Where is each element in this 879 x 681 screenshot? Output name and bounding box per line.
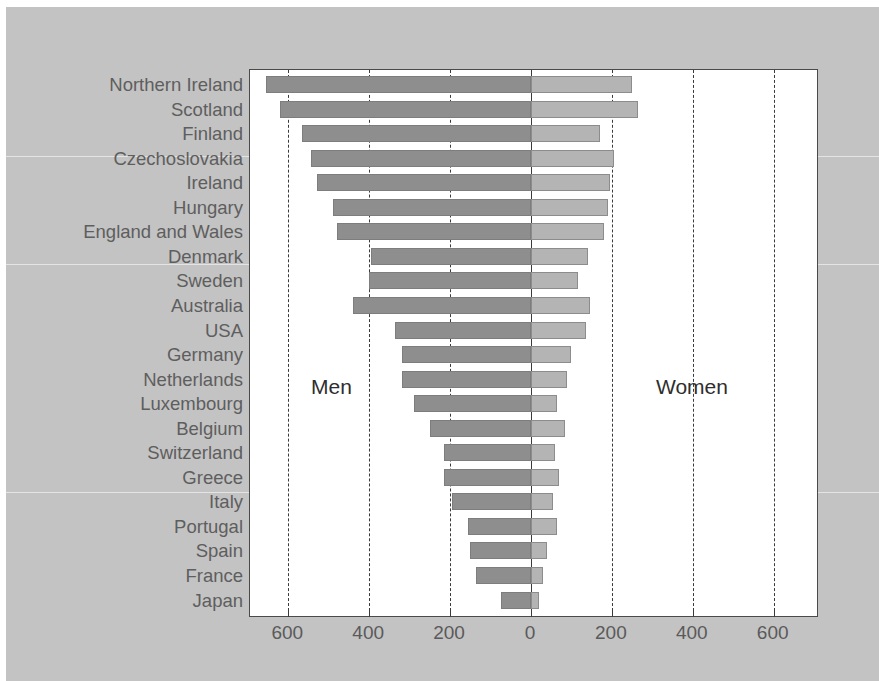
category-label: Portugal bbox=[174, 518, 243, 537]
gridline bbox=[693, 70, 694, 616]
bar-men bbox=[476, 567, 531, 584]
bar-men bbox=[302, 125, 531, 142]
gridline bbox=[288, 70, 289, 616]
bar-men bbox=[470, 542, 531, 559]
bar-men bbox=[353, 297, 531, 314]
category-label: Finland bbox=[182, 125, 243, 144]
bar-women bbox=[531, 518, 557, 535]
category-label: Germany bbox=[167, 346, 243, 365]
bar-men bbox=[430, 420, 531, 437]
axis-tick bbox=[693, 608, 694, 617]
bar-women bbox=[531, 150, 614, 167]
bar-men bbox=[501, 592, 531, 609]
bar-women bbox=[531, 101, 638, 118]
axis-tick-label: 200 bbox=[419, 622, 479, 644]
axis-tick-label: 200 bbox=[581, 622, 641, 644]
category-label: France bbox=[185, 567, 243, 586]
category-label: Belgium bbox=[176, 420, 243, 439]
bar-men bbox=[444, 469, 531, 486]
category-label: USA bbox=[205, 322, 243, 341]
bar-women bbox=[531, 469, 559, 486]
bar-men bbox=[266, 76, 531, 93]
bar-men bbox=[333, 199, 531, 216]
bar-women bbox=[531, 395, 557, 412]
figure-root: Northern IrelandScotlandFinlandCzechoslo… bbox=[0, 0, 879, 681]
category-label: Scotland bbox=[171, 101, 243, 120]
bar-women bbox=[531, 493, 553, 510]
category-label: Japan bbox=[193, 592, 243, 611]
category-label: Sweden bbox=[176, 272, 243, 291]
bar-women bbox=[531, 420, 565, 437]
bar-men bbox=[371, 248, 531, 265]
bar-men bbox=[414, 395, 531, 412]
category-label: Netherlands bbox=[143, 371, 243, 390]
bar-women bbox=[531, 592, 539, 609]
bar-men bbox=[452, 493, 531, 510]
plot-area: Men Women bbox=[249, 69, 818, 617]
gridline bbox=[774, 70, 775, 616]
axis-tick bbox=[612, 608, 613, 617]
category-label: Ireland bbox=[186, 174, 243, 193]
bar-men bbox=[402, 371, 531, 388]
axis-tick bbox=[450, 608, 451, 617]
bar-men bbox=[311, 150, 531, 167]
category-label: Luxembourg bbox=[140, 395, 243, 414]
category-label: Greece bbox=[182, 469, 243, 488]
bar-men bbox=[468, 518, 531, 535]
bar-women bbox=[531, 542, 547, 559]
category-label: Switzerland bbox=[147, 444, 243, 463]
bar-women bbox=[531, 272, 578, 289]
category-label: Czechoslovakia bbox=[113, 150, 243, 169]
axis-tick bbox=[369, 608, 370, 617]
category-label: Australia bbox=[171, 297, 243, 316]
category-label: Denmark bbox=[168, 248, 243, 267]
bar-women bbox=[531, 199, 608, 216]
bar-men bbox=[369, 272, 531, 289]
bar-men bbox=[395, 322, 531, 339]
bar-men bbox=[280, 101, 531, 118]
bar-women bbox=[531, 567, 543, 584]
bar-men bbox=[402, 346, 531, 363]
bar-women bbox=[531, 322, 586, 339]
bar-women bbox=[531, 223, 604, 240]
series-annotation-men: Men bbox=[311, 375, 352, 399]
category-label: Italy bbox=[209, 493, 243, 512]
axis-tick bbox=[774, 608, 775, 617]
bar-men bbox=[337, 223, 531, 240]
bar-men bbox=[317, 174, 531, 191]
axis-tick-label: 400 bbox=[662, 622, 722, 644]
category-label: Spain bbox=[196, 542, 243, 561]
bar-women bbox=[531, 371, 567, 388]
series-annotation-women: Women bbox=[656, 375, 728, 399]
axis-tick bbox=[531, 608, 532, 617]
bar-men bbox=[444, 444, 531, 461]
category-label: Hungary bbox=[173, 199, 243, 218]
bar-women bbox=[531, 125, 600, 142]
bar-women bbox=[531, 297, 590, 314]
bar-women bbox=[531, 346, 571, 363]
axis-tick-label: 0 bbox=[500, 622, 560, 644]
axis-tick-label: 400 bbox=[338, 622, 398, 644]
category-label: Northern Ireland bbox=[109, 76, 243, 95]
axis-tick bbox=[288, 608, 289, 617]
category-label: England and Wales bbox=[83, 223, 243, 242]
bar-women bbox=[531, 248, 588, 265]
bar-women bbox=[531, 76, 632, 93]
axis-tick-label: 600 bbox=[743, 622, 803, 644]
axis-tick-label: 600 bbox=[257, 622, 317, 644]
category-axis-labels: Northern IrelandScotlandFinlandCzechoslo… bbox=[0, 0, 243, 681]
bar-women bbox=[531, 444, 555, 461]
bar-women bbox=[531, 174, 610, 191]
